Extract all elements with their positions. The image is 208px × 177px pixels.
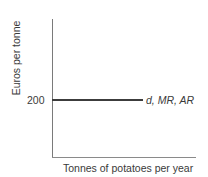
y-tick-200: 200 [27, 94, 45, 106]
price-taker-demand-chart: Euros per tonne 200 d, MR, AR Tonnes of … [0, 0, 208, 177]
y-axis-label: Euros per tonne [10, 21, 22, 96]
chart-plot-area [0, 0, 208, 177]
x-axis-label: Tonnes of potatoes per year [63, 162, 193, 174]
series-label-d-mr-ar: d, MR, AR [146, 94, 194, 106]
